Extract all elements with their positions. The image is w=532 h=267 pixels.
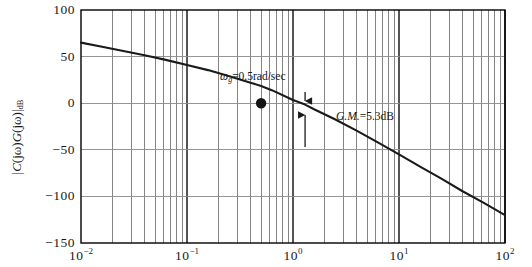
- x-tick-mantissa: 10: [496, 248, 511, 263]
- y-label-g: G: [9, 133, 24, 142]
- gain-margin-label: G.M.: [336, 110, 360, 122]
- y-label-bar-close: |: [9, 109, 24, 112]
- y-label-jw-1: (jω): [9, 142, 24, 163]
- x-tick-exponent: −2: [83, 246, 93, 256]
- y-tick-label: −100: [29, 188, 75, 204]
- gain-crossover-value: =0.5rad/sec: [232, 70, 285, 82]
- x-tick-mantissa: 10: [69, 248, 84, 263]
- x-tick-label: 101: [376, 246, 422, 264]
- bode-magnitude-figure: |C(jω)G(jω)|dB 100500−50−100−150 10−210−…: [0, 0, 532, 267]
- x-tick-mantissa: 10: [175, 248, 190, 263]
- y-tick-label: 100: [29, 2, 75, 18]
- y-tick-label: −50: [29, 142, 75, 158]
- x-tick-label: 10−2: [58, 246, 104, 264]
- x-tick-exponent: 2: [510, 246, 515, 256]
- x-tick-mantissa: 10: [284, 248, 299, 263]
- y-label-bar-open: |: [9, 172, 24, 175]
- x-tick-mantissa: 10: [390, 248, 405, 263]
- y-label-db-subscript: dB: [15, 100, 25, 110]
- y-axis-label: |C(jω)G(jω)|dB: [6, 52, 28, 222]
- x-tick-label: 102: [482, 246, 528, 264]
- gain-margin-annotation: G.M.=5.3dB: [336, 110, 394, 122]
- x-tick-exponent: 0: [298, 246, 303, 256]
- y-tick-label: 50: [29, 49, 75, 65]
- gain-crossover-dot: [256, 98, 266, 108]
- x-tick-exponent: 1: [404, 246, 409, 256]
- y-label-jw-2: (jω): [9, 112, 24, 133]
- y-label-c: C: [9, 163, 24, 172]
- x-tick-exponent: −1: [189, 246, 199, 256]
- y-tick-label: 0: [29, 95, 75, 111]
- gain-crossover-annotation: ωg=0.5rad/sec: [220, 70, 286, 84]
- gain-margin-value: =5.3dB: [360, 110, 394, 122]
- omega-symbol: ω: [220, 70, 228, 82]
- x-tick-label: 100: [270, 246, 316, 264]
- x-tick-label: 10−1: [164, 246, 210, 264]
- plot-canvas: [0, 0, 532, 267]
